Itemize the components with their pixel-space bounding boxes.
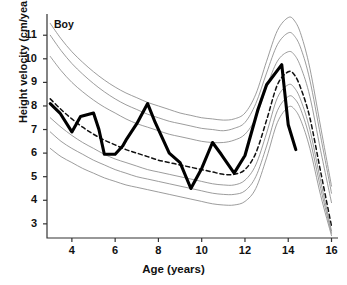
y-tick-label: 6 — [15, 146, 37, 158]
y-tick-label: 9 — [15, 75, 37, 87]
series-curve — [50, 17, 331, 186]
y-tick-label: 8 — [15, 99, 37, 111]
x-tick-label: 4 — [60, 244, 84, 256]
series-curve — [50, 96, 331, 234]
curve-group — [50, 17, 331, 236]
chart-plot-area — [0, 0, 347, 285]
x-axis-label: Age (years) — [0, 263, 347, 275]
height-velocity-chart: Height velocity (cm/year) Age (years) Bo… — [0, 0, 347, 285]
x-tick-label: 8 — [146, 244, 170, 256]
y-tick-label: 3 — [15, 217, 37, 229]
y-tick-label: 7 — [15, 123, 37, 135]
x-tick-label: 14 — [276, 244, 300, 256]
y-tick-label: 4 — [15, 193, 37, 205]
series-curve — [50, 71, 331, 226]
y-tick-label: 11 — [15, 28, 37, 40]
y-tick-label: 5 — [15, 170, 37, 182]
y-tick-label: 10 — [15, 52, 37, 64]
series-annotation-boy: Boy — [54, 18, 74, 30]
x-tick-label: 12 — [233, 244, 257, 256]
x-tick-label: 6 — [103, 244, 127, 256]
x-tick-label: 10 — [190, 244, 214, 256]
axis-group — [43, 14, 338, 242]
x-tick-label: 16 — [320, 244, 344, 256]
